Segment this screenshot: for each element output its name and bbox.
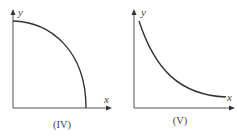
graph-v-x-label: x — [226, 91, 232, 103]
graph-v-x-arrow-icon — [229, 106, 235, 111]
graph-iv-caption: (IV) — [53, 119, 72, 131]
graph-iv-y-arrow-icon — [11, 9, 16, 15]
graph-v-y-label: y — [140, 6, 146, 18]
graphs-figure: y x (IV) y x (V) — [0, 0, 237, 139]
graph-v-y-arrow-icon — [132, 9, 137, 15]
graph-iv-y-label: y — [17, 6, 23, 18]
graph-iv-x-label: x — [103, 93, 109, 105]
graph-iv-curve — [13, 21, 86, 108]
graph-v-caption: (V) — [173, 115, 188, 127]
graph-iv-x-arrow-icon — [106, 106, 112, 111]
graph-v-curve — [139, 21, 226, 97]
graph-v: y x (V) — [132, 6, 236, 127]
graph-iv: y x (IV) — [11, 6, 113, 131]
